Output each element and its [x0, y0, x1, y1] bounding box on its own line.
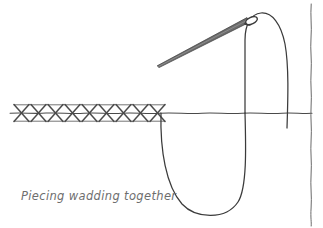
thread-loop-group — [161, 113, 246, 215]
thread-arc-above-fabric — [245, 13, 288, 128]
needle-highlight — [159, 20, 249, 67]
fabric-edge-line — [311, 4, 312, 226]
fabric-edge-group — [311, 4, 312, 226]
piecing-wadding-illustration — [0, 0, 323, 228]
illustration-canvas: Piecing wadding together — [0, 0, 323, 228]
sewing-needle-group — [157, 15, 258, 68]
thread-arc-group — [245, 13, 288, 128]
thread-loop-below-fabric — [161, 113, 246, 215]
